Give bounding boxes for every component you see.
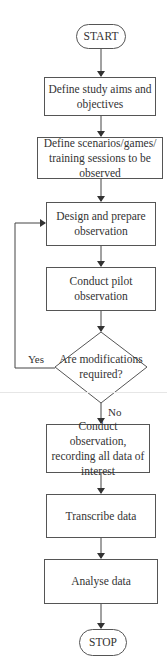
step-design-prepare: Design and prepare observation (46, 202, 156, 246)
decision-label: Are modifications required? (55, 352, 147, 382)
step-define-scenarios: Define scenarios/games/ training session… (37, 137, 163, 179)
start-label: START (84, 29, 119, 44)
step-label: Define study aims and objectives (45, 82, 155, 112)
step-label: Analyse data (71, 574, 131, 589)
stop-label: STOP (89, 635, 117, 650)
step-define-aims: Define study aims and objectives (44, 77, 156, 116)
step-label: Conduct observation, recording all data … (49, 419, 147, 479)
step-conduct-observation: Conduct observation, recording all data … (46, 424, 150, 473)
step-label: Define scenarios/games/ training session… (41, 136, 159, 181)
no-label: No (108, 406, 121, 418)
stop-terminal: STOP (79, 629, 127, 656)
step-label: Transcribe data (66, 509, 137, 524)
divider-line (0, 392, 167, 393)
step-transcribe-data: Transcribe data (46, 494, 156, 538)
step-label: Conduct pilot observation (61, 274, 141, 304)
start-terminal: START (76, 24, 126, 49)
step-label: Design and prepare observation (55, 209, 147, 239)
step-pilot-observation: Conduct pilot observation (46, 267, 156, 311)
step-analyse-data: Analyse data (44, 559, 158, 604)
yes-label: Yes (28, 353, 44, 365)
